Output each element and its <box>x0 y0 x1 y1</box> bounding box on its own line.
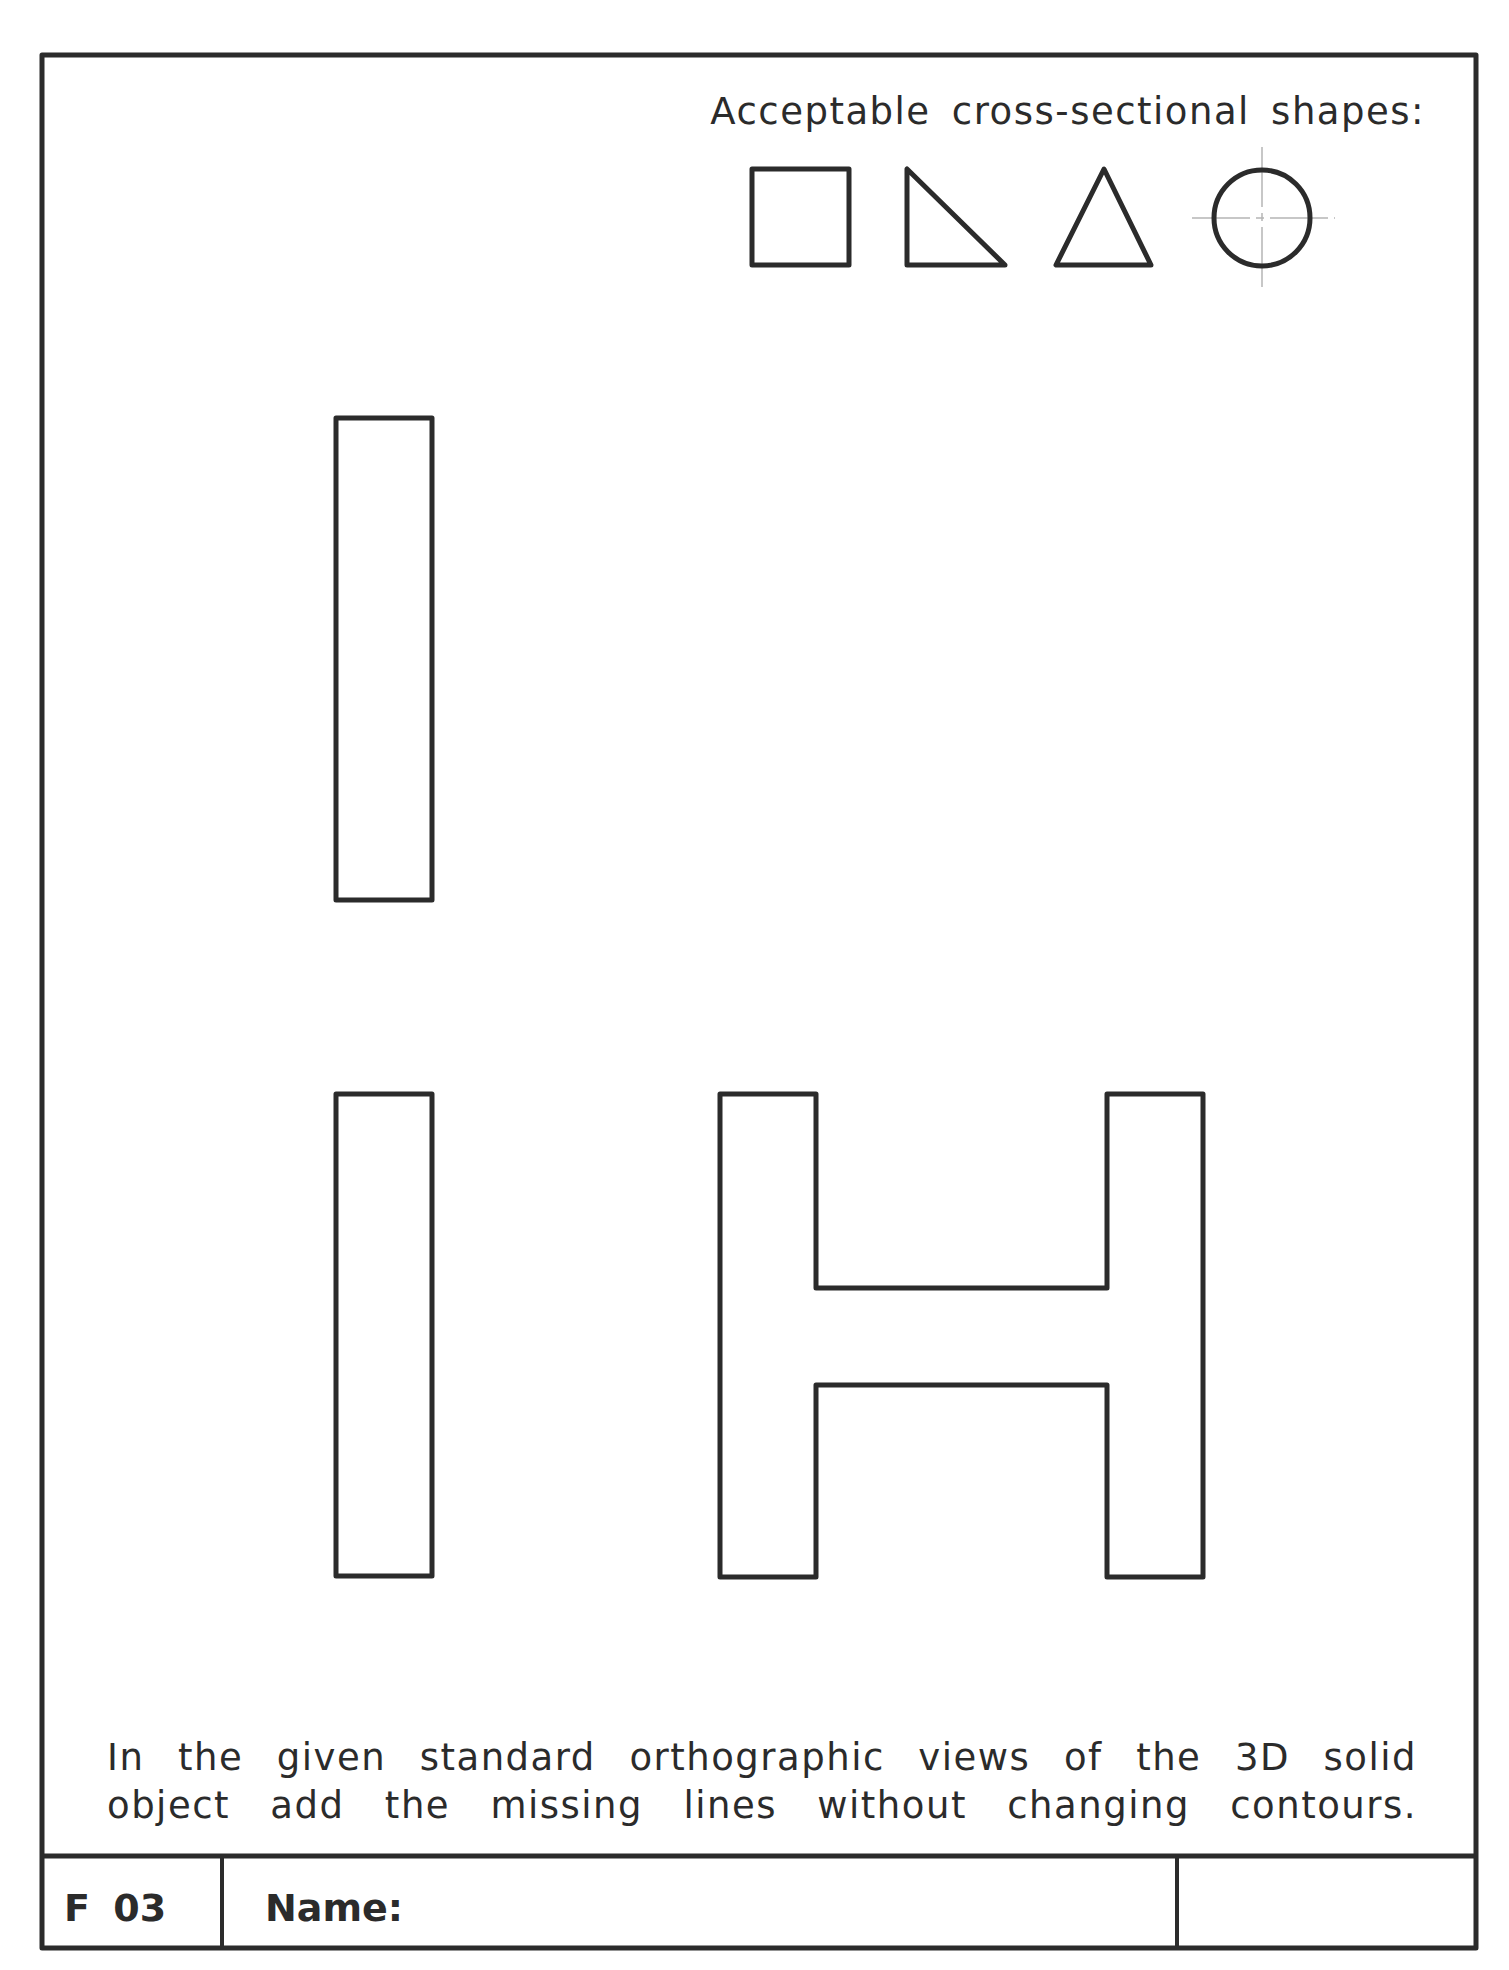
front-view-rectangle <box>336 1094 432 1576</box>
acceptable-shapes-row <box>752 147 1335 292</box>
name-label: Name: <box>265 1886 403 1930</box>
right-triangle-icon <box>907 169 1005 265</box>
sheet-border <box>42 55 1476 1948</box>
side-view-h-shape <box>720 1094 1203 1577</box>
top-view-rectangle <box>336 418 432 900</box>
square-icon <box>752 169 849 265</box>
circle-icon <box>1192 147 1335 292</box>
name-field[interactable] <box>400 1870 1160 1936</box>
triangle-icon <box>1056 169 1151 265</box>
instruction-text: In the given standard orthographic views… <box>107 1734 1417 1830</box>
sheet-code: F 03 <box>64 1886 166 1930</box>
shapes-heading: Acceptable cross-sectional shapes: <box>710 90 1425 133</box>
instruction-line-2: object add the missing lines without cha… <box>107 1782 1417 1830</box>
drawing-sheet <box>0 0 1509 1970</box>
instruction-line-1: In the given standard orthographic views… <box>107 1734 1417 1782</box>
title-block-extra-field[interactable] <box>1182 1862 1472 1946</box>
